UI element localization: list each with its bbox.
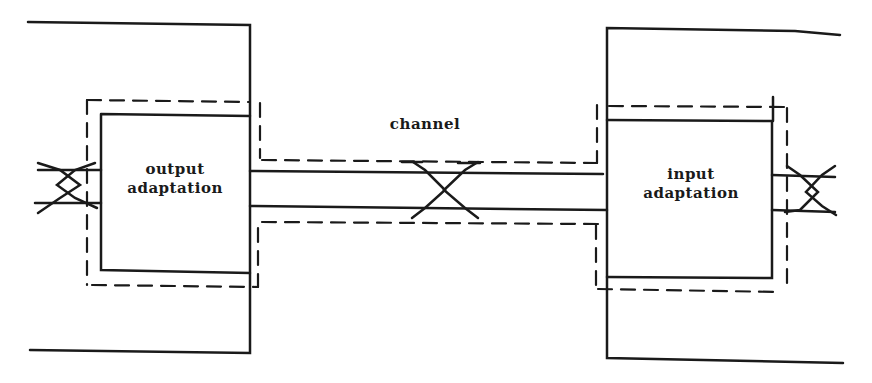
twisted-pair-icon-channel (402, 162, 480, 218)
input-adaptation-label: input adaptation (612, 165, 770, 203)
output-adaptation-line1: output (105, 160, 245, 179)
input-adaptation-line2: adaptation (612, 184, 770, 203)
output-adaptation-label: output adaptation (105, 160, 245, 198)
output-adaptation-line2: adaptation (105, 179, 245, 198)
channel-label: channel (370, 115, 480, 134)
input-adaptation-line1: input (612, 165, 770, 184)
twisted-pair-icon-right (785, 166, 836, 215)
